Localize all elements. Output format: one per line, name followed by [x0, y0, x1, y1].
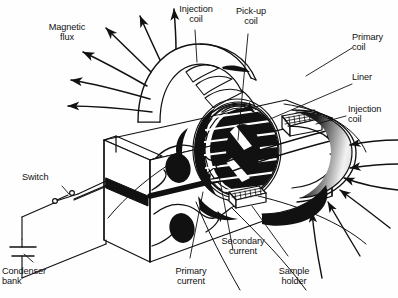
label-secondary-current: Secondary current [206, 236, 280, 257]
label-injection-coil-top: Injection coil [166, 4, 226, 25]
label-magnetic-flux: Magnetic flux [36, 22, 98, 43]
condenser-bank-circuit [10, 181, 107, 278]
label-sample-holder: Sample holder [266, 266, 322, 287]
label-condenser-bank: Condenser bank [2, 266, 72, 287]
label-switch: Switch [22, 172, 70, 182]
label-primary-coil: Primary coil [352, 32, 398, 53]
diagram-artwork [0, 0, 398, 298]
label-liner: Liner [352, 72, 396, 82]
label-primary-current: Primary current [160, 266, 222, 287]
label-injection-coil-right: Injection coil [348, 104, 398, 125]
figure-root: Magnetic flux Injection coil Pick-up coi… [0, 0, 398, 298]
label-pickup-coil: Pick-up coil [222, 6, 280, 27]
